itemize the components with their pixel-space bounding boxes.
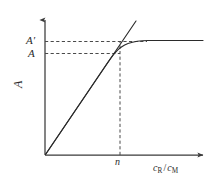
experimental-curve — [46, 41, 204, 155]
construction-lines-group — [45, 42, 147, 156]
mole-ratio-chart-figure: A′ A A n cR/cM — [0, 0, 214, 184]
y-tick-label-a-prime-text: A — [26, 34, 33, 46]
y-axis-title: A — [12, 81, 24, 88]
y-tick-label-a-prime: A′ — [26, 35, 35, 46]
x-tick-label-n: n — [115, 157, 120, 167]
chart-canvas — [0, 0, 214, 184]
x-axis-denominator-subscript: M — [172, 167, 179, 175]
x-axis-title: cR/cM — [153, 163, 178, 175]
prime-glyph: ′ — [33, 34, 35, 46]
y-tick-label-a: A — [28, 48, 35, 59]
